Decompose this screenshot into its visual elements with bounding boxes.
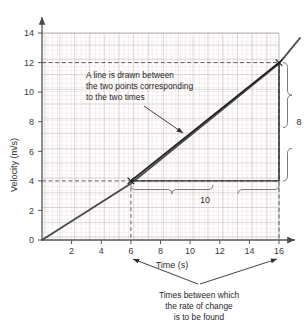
y-tick-10: 10 [24,87,34,97]
y-tick-0: 0 [29,235,34,245]
x-tick-16: 16 [274,246,284,256]
y-tick-6: 6 [29,147,34,157]
annotation-line-3: to the two times [86,92,145,102]
y-tick-4: 4 [29,176,34,186]
caption-line-1: Times between which [159,290,240,300]
x-tick-14: 14 [244,246,254,256]
y-tick-14: 14 [24,28,34,38]
rise-brace-label: 8 [296,117,301,127]
x-tick-6: 6 [128,246,133,256]
major-gridlines [42,33,279,240]
x-tick-12: 12 [215,246,225,256]
x-axis-title: Time (s) [156,260,189,270]
caption-line-3: is to be found [174,312,225,322]
x-tick-4: 4 [99,246,104,256]
chart-figure: 0 2 4 6 8 10 12 14 2 4 6 8 10 12 14 16 V… [0,0,306,324]
run-brace-label: 10 [200,195,210,205]
y-tick-8: 8 [29,117,34,127]
y-tick-2: 2 [29,206,34,216]
x-tick-2: 2 [69,246,74,256]
x-tick-8: 8 [158,246,163,256]
y-axis-title: Velocity (m/s) [9,138,19,192]
velocity-time-chart: 0 2 4 6 8 10 12 14 2 4 6 8 10 12 14 16 V… [0,0,306,324]
annotation-line-1: A line is drawn between [86,70,174,80]
x-tick-10: 10 [185,246,195,256]
annotation-line-2: the two points corresponding [86,81,193,91]
plot-grid [42,33,279,240]
caption-line-2: the rate of change [165,301,233,311]
y-tick-12: 12 [24,58,34,68]
